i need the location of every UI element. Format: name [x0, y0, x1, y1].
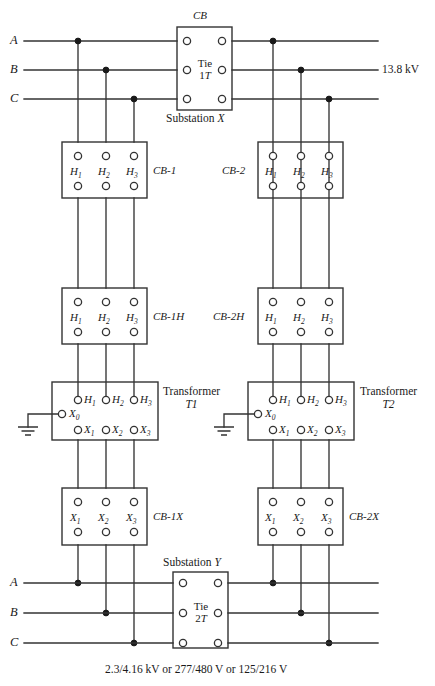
cb1h-terminal-label-h3: H3 — [126, 312, 138, 326]
cb1-terminal-label-h1: H1 — [70, 166, 82, 180]
t1-h3-terminal — [130, 396, 137, 403]
transformer-label-t2-name: T2 — [360, 398, 417, 411]
tie2t-terminal-a-left — [179, 579, 186, 586]
right-interconnect-t2-cb2x — [273, 440, 329, 488]
right-interconnect-cb2h-t2 — [273, 344, 329, 400]
junction-left-b — [103, 67, 109, 73]
t2-terminal-label-h1: H1 — [279, 394, 291, 408]
device-label-cb-2x: CB-2X — [349, 511, 379, 522]
t2-neutral-lead — [224, 414, 254, 427]
junction-right-c — [326, 96, 332, 102]
t2-terminal-label-x3: X3 — [335, 424, 345, 438]
cb1h-terminal-label-h1: H1 — [70, 312, 82, 326]
one-line-diagram: CB A B C Tie 1T Substation X 13.8 kV H1 … — [0, 0, 435, 686]
cb2h-terminal-label-h3: H3 — [321, 312, 333, 326]
transformer-label-t1-word: Transformer — [163, 385, 220, 398]
t1-terminal-label-h3: H3 — [140, 394, 152, 408]
tie2t-terminal-b-left — [179, 609, 186, 616]
cb2x-terminal-label-x1: X1 — [265, 512, 275, 526]
t1-neutral-lead — [28, 414, 58, 427]
t1-terminal-label-x2: X2 — [112, 424, 122, 438]
t1-terminal-label-x3: X3 — [140, 424, 150, 438]
phase-label-bottom-c: C — [10, 636, 18, 649]
t2-terminal-label-h3: H3 — [335, 394, 347, 408]
tie2t-terminal-c-left — [179, 639, 186, 646]
t2-x2-terminal — [297, 426, 304, 433]
cb2x-terminal-label-x3: X3 — [321, 512, 331, 526]
t2-h1-terminal — [269, 396, 276, 403]
tie1t-terminal-c-left — [183, 95, 190, 102]
t1-terminal-label-x0: X0 — [69, 408, 79, 422]
t1-terminal-label-h2: H2 — [112, 394, 124, 408]
t1-x0-terminal — [58, 410, 65, 417]
right-drops-to-bottom-bus — [270, 545, 332, 646]
junction-right-a — [270, 38, 276, 44]
left-feeder-taps-top — [75, 38, 137, 142]
bottom-voltage-caption: 2.3/4.16 kV or 277/480 V or 125/216 V — [105, 664, 287, 676]
transformer-label-t2-word: Transformer — [360, 385, 417, 398]
substation-x-label: Substation X — [166, 113, 224, 125]
tie-1t-label: Tie 1T — [192, 57, 218, 82]
t2-h2-terminal — [297, 396, 304, 403]
tie1t-terminal-b-left — [183, 66, 190, 73]
substation-y-label: Substation Y — [163, 557, 221, 569]
t2-h3-terminal — [325, 396, 332, 403]
tie-2t-line1: Tie — [188, 600, 214, 612]
tie2t-terminal-c-right — [214, 639, 221, 646]
phase-label-top-c: C — [10, 92, 18, 105]
t1-x3-terminal — [130, 426, 137, 433]
t2-x1-terminal — [269, 426, 276, 433]
left-interconnect-cb1-cb1h — [78, 198, 134, 288]
t1-h2-terminal — [102, 396, 109, 403]
phase-label-bottom-a: A — [10, 576, 18, 589]
device-label-cb-2: CB-2 — [222, 165, 245, 176]
cb2x-terminal-label-x2: X2 — [293, 512, 303, 526]
junction-left-a — [75, 38, 81, 44]
device-label-cb-2h: CB-2H — [213, 311, 244, 322]
t2-terminal-label-x2: X2 — [307, 424, 317, 438]
tie1t-terminal-b-right — [218, 66, 225, 73]
t2-x3-terminal — [325, 426, 332, 433]
cb1h-terminal-label-h2: H2 — [98, 312, 110, 326]
t1-x1-terminal — [74, 426, 81, 433]
cb1-terminal-label-h3: H3 — [126, 166, 138, 180]
cb2-terminal-label-h1: H1 — [265, 166, 277, 180]
device-label-cb-1: CB-1 — [153, 165, 176, 176]
cb2-terminal-label-h2: H2 — [293, 166, 305, 180]
device-label-cb-1h: CB-1H — [153, 311, 184, 322]
cb1x-terminal-label-x3: X3 — [126, 512, 136, 526]
cb2-terminal-label-h3: H3 — [321, 166, 333, 180]
t2-terminal-label-x0: X0 — [265, 408, 275, 422]
right-feeder-taps-top — [270, 38, 332, 288]
cb2h-terminal-label-h1: H1 — [265, 312, 277, 326]
tie-2t-line2: 2T — [188, 612, 214, 624]
tie1t-terminal-c-right — [218, 95, 225, 102]
t2-terminal-label-h2: H2 — [307, 394, 319, 408]
cb1x-terminal-label-x2: X2 — [98, 512, 108, 526]
t1-terminal-label-x1: X1 — [84, 424, 94, 438]
transformer-label-t1: Transformer T1 — [163, 385, 220, 411]
junction-left-c — [131, 96, 137, 102]
cb1x-terminal-label-x1: X1 — [70, 512, 80, 526]
tie2t-terminal-b-right — [214, 609, 221, 616]
cb2h-terminal-label-h2: H2 — [293, 312, 305, 326]
t2-terminal-label-x1: X1 — [279, 424, 289, 438]
transformer-label-t1-name: T1 — [163, 398, 220, 411]
phase-label-top-a: A — [10, 34, 18, 47]
tie-1t-line2: 1T — [192, 69, 218, 81]
t1-terminal-label-h1: H1 — [84, 394, 96, 408]
left-interconnect-cb1h-t1 — [78, 344, 134, 400]
left-interconnect-t1-cb1x — [78, 440, 134, 488]
junction-right-b — [298, 67, 304, 73]
t1-h1-terminal — [74, 396, 81, 403]
phase-label-top-b: B — [10, 63, 18, 76]
transformer-label-t2: Transformer T2 — [360, 385, 417, 411]
device-label-cb-1x: CB-1X — [153, 511, 183, 522]
cb1-terminal-label-h2: H2 — [98, 166, 110, 180]
tie2t-terminal-a-right — [214, 579, 221, 586]
t2-x0-terminal — [254, 410, 261, 417]
cb-title-top: CB — [193, 10, 207, 21]
t1-x2-terminal — [102, 426, 109, 433]
tie1t-terminal-a-right — [218, 37, 225, 44]
left-drops-to-bottom-bus — [75, 545, 137, 646]
